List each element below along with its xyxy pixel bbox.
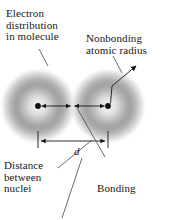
- distance-symbol-d: d: [74, 146, 80, 158]
- electron-cloud-group: [1, 69, 145, 143]
- label-bonding-atomic-radius: Bonding atomic radius, 1 2 d: [97, 160, 146, 220]
- leader-electron-distribution: [39, 49, 48, 66]
- label-distance-between-nuclei: Distance between nuclei: [4, 160, 43, 195]
- label-electron-distribution: Electron distribution in molecule: [6, 8, 59, 43]
- bonding-line-2: atomic: [97, 218, 146, 220]
- bonding-line-1: Bonding: [97, 183, 146, 195]
- nucleus-left: [35, 103, 41, 109]
- leader-bottom-callout: [62, 158, 82, 218]
- label-nonbonding-atomic-radius: Nonbonding atomic radius: [86, 33, 147, 56]
- nucleus-right: [105, 103, 111, 109]
